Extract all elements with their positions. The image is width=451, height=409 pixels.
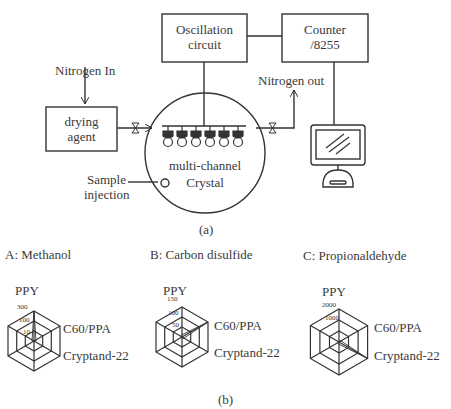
crystal-line2: Crystal [160,175,250,190]
panel-b-axis-cryptand: Cryptand-22 [214,345,280,360]
panel-c-tick-2000: 2000 [322,301,336,309]
crystal-label: multi-channel Crystal [160,158,250,190]
panel-a-tick-100: 100 [19,316,30,324]
panel-a-axis-c60: C60/PPA [63,321,111,336]
counter-label: Counter /8255 [282,22,368,52]
oscillation-circuit-label: Oscillation circuit [162,22,247,52]
nitrogen-out-label: Nitrogen out [258,73,324,88]
sensor-array [163,126,243,147]
oscillation-line2: circuit [162,37,247,52]
panel-a-tick-10: 10 [23,328,30,336]
crystal-chamber [145,93,265,213]
panel-c-title: C: Propionaldehyde [303,248,407,263]
radar-chart-a [8,311,60,371]
panel-c-axis-c60: C60/PPA [374,320,422,335]
panel-b-tick-50: 50 [172,321,179,329]
panel-b-tick-100: 100 [168,309,179,317]
radar-chart-b [156,307,208,367]
panel-a-title: A: Methanol [5,247,71,262]
counter-line1: Counter [282,22,368,37]
drying-agent-label: drying agent [46,114,117,144]
panel-b-title: B: Carbon disulfide [150,247,253,262]
panel-a-tick-300: 300 [17,303,28,311]
caption-a: (a) [199,222,213,237]
panel-b-axis-c60: C60/PPA [214,318,262,333]
nitrogen-in-label: Nitrogen In [55,63,115,78]
sample-line1: Sample [84,172,130,187]
computer-monitor-icon [311,125,365,187]
oscillation-line1: Oscillation [162,22,247,37]
sample-line2: injection [84,187,130,202]
crystal-line1: multi-channel [160,158,250,173]
counter-line2: /8255 [282,37,368,52]
panel-b-tick-150: 150 [167,295,178,303]
panel-a-axis-cryptand: Cryptand-22 [63,348,129,363]
caption-b: (b) [218,392,233,407]
panel-a-axis-ppy: PPY [15,283,39,298]
panel-c-axis-cryptand: Cryptand-22 [374,348,440,363]
panel-c-axis-ppy: PPY [322,284,346,299]
radar-chart-c [310,309,367,375]
drying-line2: agent [46,129,117,144]
panel-c-tick-1000: 1000 [325,314,339,322]
drying-line1: drying [46,114,117,129]
sample-injection-label: Sample injection [84,172,130,202]
